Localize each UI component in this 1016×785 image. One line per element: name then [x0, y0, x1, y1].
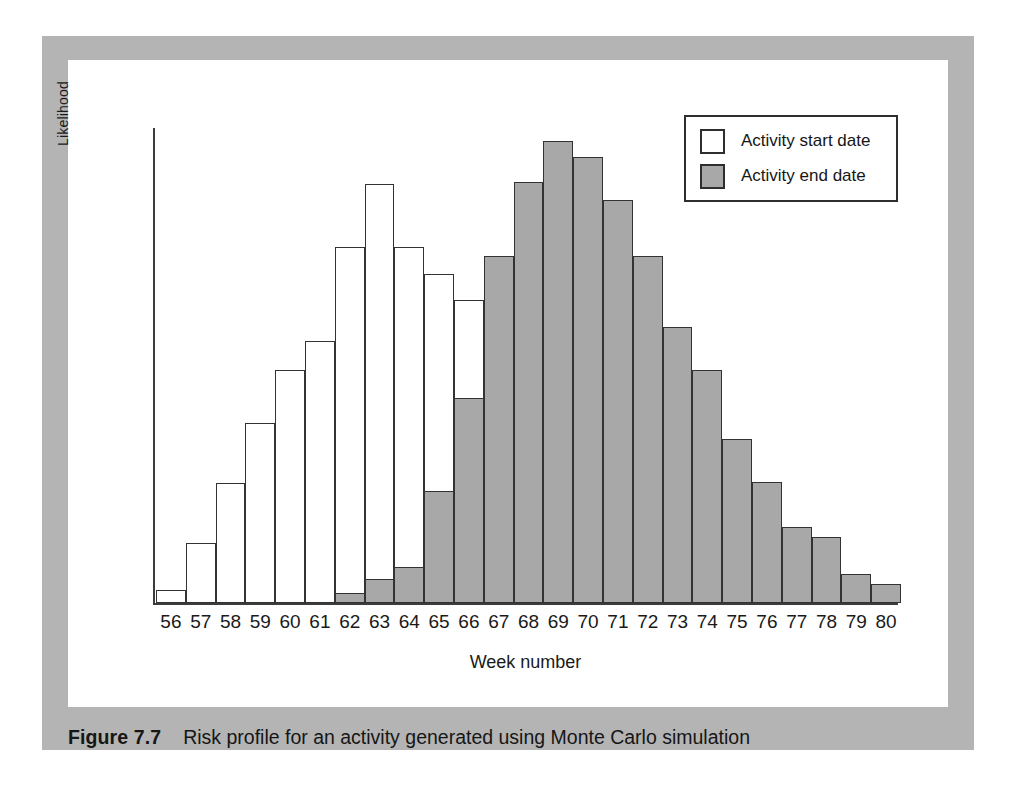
x-tick-62: 62 [335, 611, 365, 633]
x-tick-79: 79 [841, 611, 871, 633]
figure-caption: Figure 7.7Risk profile for an activity g… [68, 726, 958, 756]
legend-item-activity-start-date: Activity start date [700, 127, 870, 155]
bar-start-week-59 [245, 423, 275, 603]
bar-end-week-66 [454, 398, 484, 603]
bar-start-week-60 [275, 370, 305, 603]
bar-end-week-78 [812, 537, 842, 603]
x-tick-69: 69 [543, 611, 573, 633]
bar-end-week-74 [692, 370, 722, 603]
x-tick-67: 67 [484, 611, 514, 633]
x-tick-65: 65 [424, 611, 454, 633]
bar-start-week-63 [365, 184, 395, 603]
legend-swatch-icon-end [700, 164, 725, 189]
x-tick-76: 76 [752, 611, 782, 633]
figure-number: Figure 7.7 [68, 726, 161, 748]
x-tick-72: 72 [633, 611, 663, 633]
bar-end-week-69 [543, 141, 573, 603]
x-axis-tick-labels: 5657585960616263646566676869707172737475… [156, 611, 901, 641]
bar-end-week-76 [752, 482, 782, 603]
bar-end-week-79 [841, 574, 871, 603]
x-tick-73: 73 [663, 611, 693, 633]
x-tick-60: 60 [275, 611, 305, 633]
x-tick-57: 57 [186, 611, 216, 633]
x-tick-56: 56 [156, 611, 186, 633]
bar-start-week-64 [394, 247, 424, 603]
bar-start-week-62 [335, 247, 365, 603]
bar-end-week-64 [394, 567, 424, 603]
x-tick-75: 75 [722, 611, 752, 633]
x-tick-71: 71 [603, 611, 633, 633]
x-tick-70: 70 [573, 611, 603, 633]
x-tick-59: 59 [245, 611, 275, 633]
bar-end-week-72 [633, 256, 663, 603]
bar-start-week-56 [156, 590, 186, 603]
legend-swatch-icon-start [700, 129, 725, 154]
chart-plate: Likelihood 56575859606162636465666768697… [68, 60, 948, 707]
x-tick-66: 66 [454, 611, 484, 633]
x-tick-68: 68 [514, 611, 544, 633]
bar-start-week-58 [216, 483, 246, 603]
bar-start-week-57 [186, 543, 216, 603]
x-axis-title: Week number [153, 652, 898, 673]
legend-item-activity-end-date: Activity end date [700, 162, 866, 190]
x-tick-78: 78 [812, 611, 842, 633]
bar-end-week-70 [573, 157, 603, 603]
x-tick-63: 63 [365, 611, 395, 633]
y-axis-line [153, 128, 155, 605]
bar-end-week-75 [722, 439, 752, 603]
bar-end-week-63 [365, 579, 395, 603]
legend-label-end: Activity end date [741, 166, 866, 186]
x-tick-64: 64 [394, 611, 424, 633]
plot-area: Likelihood 56575859606162636465666768697… [68, 60, 948, 707]
figure-caption-text: Risk profile for an activity generated u… [183, 726, 750, 748]
bar-end-week-67 [484, 256, 514, 603]
x-tick-80: 80 [871, 611, 901, 633]
bar-end-week-65 [424, 491, 454, 603]
bar-end-week-73 [663, 327, 693, 603]
bar-end-week-80 [871, 584, 901, 603]
bar-end-week-77 [782, 527, 812, 603]
legend-label-start: Activity start date [741, 131, 870, 151]
x-tick-74: 74 [692, 611, 722, 633]
figure-container: Likelihood 56575859606162636465666768697… [42, 36, 974, 750]
chart-legend: Activity start date Activity end date [684, 115, 898, 202]
bar-end-week-68 [514, 182, 544, 603]
bar-start-week-61 [305, 341, 335, 603]
x-tick-77: 77 [782, 611, 812, 633]
x-tick-61: 61 [305, 611, 335, 633]
bar-end-week-62 [335, 593, 365, 603]
y-axis-title: Likelihood [55, 26, 71, 146]
x-tick-58: 58 [216, 611, 246, 633]
bar-end-week-71 [603, 200, 633, 603]
